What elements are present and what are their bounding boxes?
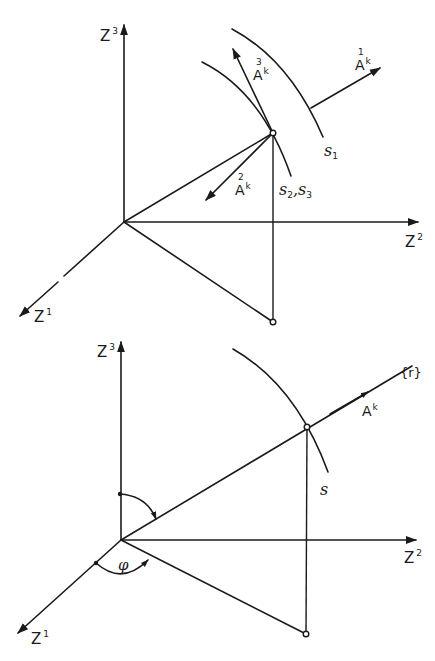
projection-foot-point (270, 319, 276, 325)
vector-sup: k (366, 56, 371, 66)
axis-label-sup: 2 (416, 548, 422, 558)
vector-index: 1 (358, 48, 364, 57)
azimuth-angle-label: φ (118, 558, 129, 573)
axis-label-sup: 1 (43, 629, 49, 639)
vector-base: A (355, 57, 365, 73)
axis-label-sup: 1 (46, 307, 52, 317)
surface-sub: 1 (332, 151, 338, 161)
axis-label-base: Z (31, 630, 41, 648)
surface-base: ѕ (320, 480, 328, 499)
surface-base: ѕ (324, 141, 332, 160)
vector-index: 2 (238, 173, 244, 182)
surface-base: ѕ (279, 180, 287, 199)
vector-ak-label: Ak (362, 403, 378, 418)
vector-base: A (253, 67, 263, 83)
surface-sub: 3 (306, 190, 312, 200)
surface-s2-s3-label: ѕ2,ѕ3 (279, 182, 312, 200)
vector-sup: k (264, 66, 269, 76)
vector-sup: k (373, 402, 378, 412)
axis-label-base: Z (34, 308, 44, 326)
surface-s1-label: ѕ1 (324, 143, 338, 161)
position-line (124, 133, 273, 222)
axis-label-sup: 3 (109, 342, 115, 352)
top-z3-axis-label: Z3 (100, 27, 118, 44)
vector-base: A (362, 403, 372, 419)
vector-a1-label: 1Ak (355, 57, 371, 72)
coordinate-diagrams (0, 0, 435, 661)
vector-a3-arrow (233, 49, 273, 133)
azimuth-angle-start-dot (94, 561, 98, 565)
z1-axis-upper (64, 222, 124, 276)
projection-line (121, 540, 306, 634)
ray-label-text: {r} (400, 365, 422, 380)
vector-a2-label: 2Ak (235, 182, 251, 197)
vector-index: 3 (256, 58, 262, 67)
vector-base: A (235, 182, 245, 198)
polar-angle-start-dot (118, 492, 122, 496)
bottom-z2-axis-label: Z2 (404, 549, 422, 566)
vector-a3-label: 3Ak (253, 67, 269, 82)
axis-label-base: Z (405, 233, 415, 251)
surface-s-label: ѕ (320, 482, 328, 498)
bottom-z1-axis-label: Z1 (31, 630, 49, 647)
top-z2-axis-label: Z2 (405, 233, 423, 250)
axis-label-sup: 3 (112, 26, 118, 36)
axis-label-base: Z (404, 549, 414, 567)
surface-point (270, 130, 276, 136)
bottom-z3-axis-label: Z3 (97, 343, 115, 360)
ray-r-label: {r} (400, 366, 422, 379)
surface-s-curve (233, 349, 328, 472)
vector-a1-arrow (311, 68, 380, 108)
projection-foot-point (303, 631, 309, 637)
polar-angle-arc (120, 494, 156, 519)
phi-symbol: φ (118, 556, 129, 574)
vertical-drop-line (306, 427, 307, 634)
axis-label-base: Z (97, 343, 107, 361)
z1-axis (18, 540, 121, 633)
vector-sup: k (246, 181, 251, 191)
top-z1-axis-label: Z1 (34, 308, 52, 325)
axis-label-sup: 2 (417, 232, 423, 242)
figure-bottom (18, 342, 416, 637)
projection-line (124, 222, 273, 322)
surface-point (304, 424, 310, 430)
axis-label-base: Z (100, 27, 110, 45)
surface-s1-curve (232, 29, 323, 137)
